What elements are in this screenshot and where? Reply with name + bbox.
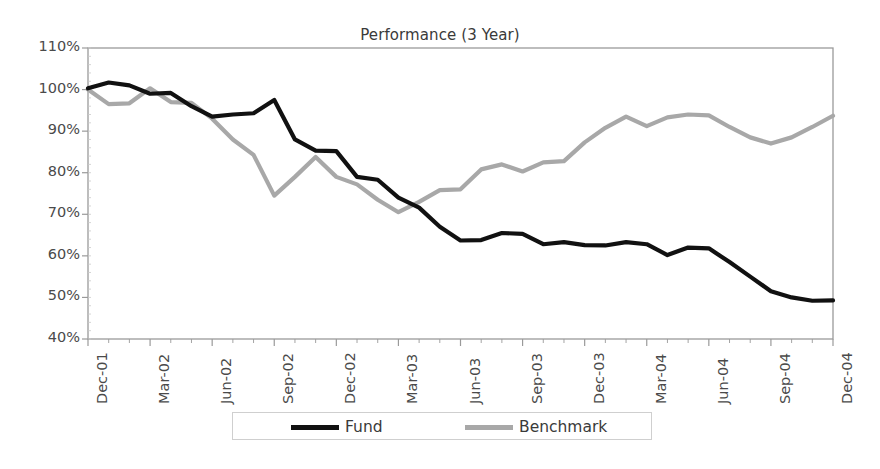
y-axis-tick-label: 70%: [8, 204, 80, 220]
x-axis-tick-label: Dec-04: [839, 352, 855, 404]
x-axis-tick-label: Sep-02: [280, 353, 296, 404]
x-axis-tick-label: Jun-04: [715, 358, 731, 404]
x-axis-tick-label: Dec-03: [591, 352, 607, 404]
legend-label-fund: Fund: [345, 418, 383, 436]
x-axis-tick-label: Dec-02: [342, 352, 358, 404]
chart-legend: Fund Benchmark: [232, 412, 652, 440]
y-axis-tick-label: 100%: [8, 80, 80, 96]
x-axis-tick-label: Mar-02: [156, 354, 172, 404]
performance-chart: Performance (3 Year) 110%100%90%80%70%60…: [0, 0, 880, 469]
y-axis-tick-label: 80%: [8, 163, 80, 179]
plot-frame: [88, 48, 833, 339]
legend-swatch-fund-icon: [291, 425, 339, 430]
x-axis-tick-label: Sep-04: [777, 353, 793, 404]
y-axis-tick-label: 50%: [8, 287, 80, 303]
x-axis-tick-label: Mar-04: [653, 354, 669, 404]
y-axis-tick-label: 40%: [8, 329, 80, 345]
x-axis-tick-label: Dec-01: [94, 352, 110, 404]
x-axis-tick-label: Jun-02: [218, 358, 234, 404]
chart-plot-area: [0, 0, 880, 469]
legend-label-benchmark: Benchmark: [519, 418, 607, 436]
y-axis-tick-label: 60%: [8, 246, 80, 262]
x-axis-tick-label: Sep-03: [529, 353, 545, 404]
y-axis-tick-label: 90%: [8, 121, 80, 137]
legend-item-benchmark: Benchmark: [465, 413, 607, 441]
y-axis-tick-label: 110%: [8, 38, 80, 54]
legend-item-fund: Fund: [291, 413, 383, 441]
x-axis-tick-label: Mar-03: [404, 354, 420, 404]
legend-swatch-benchmark-icon: [465, 425, 513, 430]
x-axis-tick-label: Jun-03: [467, 358, 483, 404]
